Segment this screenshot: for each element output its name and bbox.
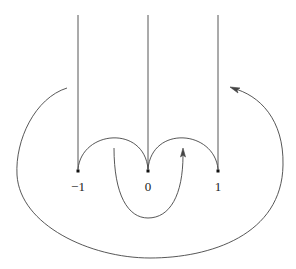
label-zero: 0 <box>145 179 152 194</box>
label-one: 1 <box>215 179 222 194</box>
contour-diagram: −1 0 1 <box>0 0 296 269</box>
diagram-canvas: −1 0 1 <box>0 0 296 269</box>
outer-loop <box>17 88 283 258</box>
point-one <box>217 170 220 173</box>
arc-left <box>78 138 148 169</box>
point-minus-one <box>77 170 80 173</box>
label-minus-one: −1 <box>71 179 85 194</box>
point-zero <box>147 170 150 173</box>
